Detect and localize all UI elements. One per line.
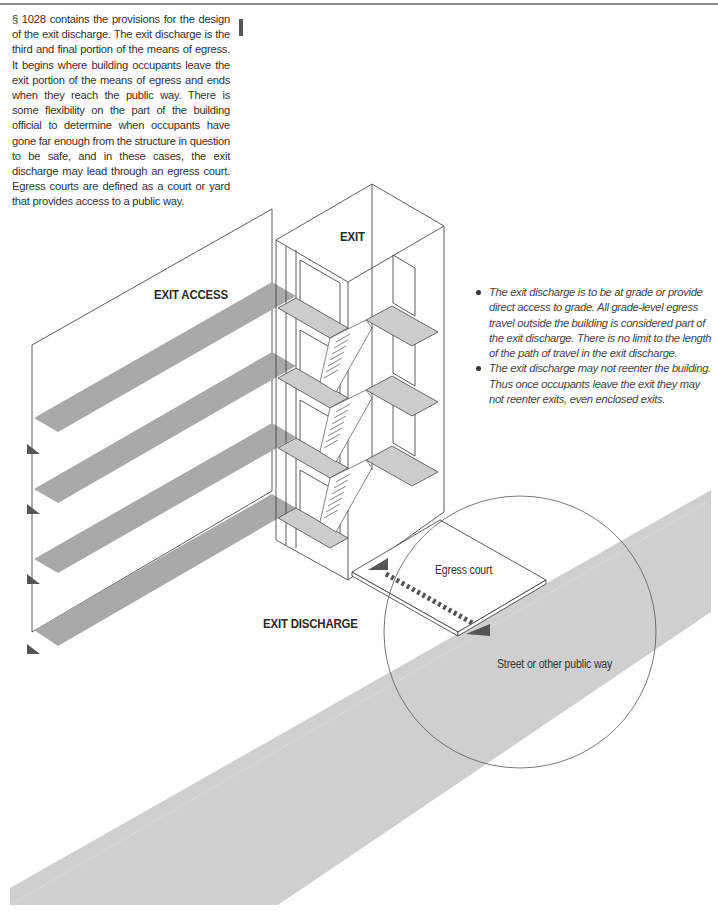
label-exit: EXIT: [340, 229, 365, 244]
direction-arrows: [27, 444, 40, 654]
label-egress-court: Egress court: [435, 563, 492, 577]
label-exit-access: EXIT ACCESS: [154, 287, 228, 302]
stair-flights: [320, 320, 372, 532]
means-of-egress-diagram: [0, 0, 718, 915]
bullet-item: The exit discharge may not reenter the b…: [474, 361, 714, 407]
bullet-icon: [476, 290, 481, 295]
bullet-icon: [476, 366, 481, 371]
exit-access-paths: [34, 282, 296, 646]
bullet-item: The exit discharge is to be at grade or …: [474, 285, 714, 361]
label-street: Street or other public way: [497, 657, 612, 671]
label-exit-discharge: EXIT DISCHARGE: [263, 616, 358, 631]
bullet-list: The exit discharge is to be at grade or …: [474, 285, 714, 407]
